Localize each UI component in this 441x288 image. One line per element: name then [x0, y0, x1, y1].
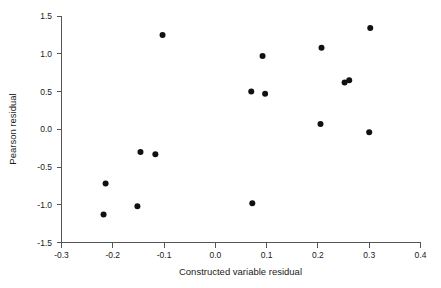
y-tick-label: 0.0 — [40, 124, 52, 134]
data-point — [152, 151, 158, 157]
data-point — [137, 149, 143, 155]
x-tick-label: -0.3 — [54, 250, 69, 260]
data-point — [103, 181, 109, 187]
data-point — [367, 25, 373, 31]
y-axis-title: Pearson residual — [7, 93, 18, 164]
x-tick-label: -0.2 — [105, 250, 120, 260]
x-tick-label: 0.1 — [261, 250, 273, 260]
data-point — [366, 129, 372, 135]
x-tick-label: 0.2 — [312, 250, 324, 260]
x-axis-title: Constructed variable residual — [179, 266, 302, 277]
plot-background — [0, 0, 441, 288]
data-point — [317, 121, 323, 127]
x-tick-label: 0.0 — [209, 250, 221, 260]
x-tick-label: 0.3 — [363, 250, 375, 260]
y-tick-label: 0.5 — [40, 87, 52, 97]
x-tick-label: 0.4 — [415, 250, 427, 260]
plot-canvas: -0.3-0.2-0.10.00.10.20.30.4 -1.5-1.0-0.5… — [0, 0, 441, 288]
data-point — [262, 91, 268, 97]
scatter-plot-figure: -0.3-0.2-0.10.00.10.20.30.4 -1.5-1.0-0.5… — [0, 0, 441, 288]
y-tick-label: 1.0 — [40, 49, 52, 59]
y-tick-label: 1.5 — [40, 11, 52, 21]
data-point — [248, 89, 254, 95]
data-point — [134, 203, 140, 209]
y-tick-label: -0.5 — [37, 162, 52, 172]
y-tick-label: -1.5 — [37, 238, 52, 248]
data-point — [101, 212, 107, 218]
data-point — [160, 32, 166, 38]
x-tick-label: -0.1 — [157, 250, 172, 260]
data-point — [319, 45, 325, 51]
data-point — [346, 77, 352, 83]
y-tick-label: -1.0 — [37, 200, 52, 210]
data-point — [249, 200, 255, 206]
data-point — [260, 53, 266, 59]
